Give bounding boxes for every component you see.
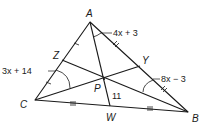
label-b: B	[192, 113, 199, 124]
label-segment-pw: 11	[112, 91, 121, 101]
label-z: Z	[52, 50, 60, 61]
label-angle-b: 8x − 3	[161, 74, 186, 84]
label-w: W	[106, 112, 117, 123]
label-a: A	[85, 8, 93, 19]
label-p: P	[94, 83, 101, 94]
point-p-dot	[103, 78, 105, 80]
segment-bz	[62, 60, 188, 112]
angle-arc-a	[93, 33, 101, 37]
angle-arc-b	[143, 80, 153, 92]
label-angle-a: 4x + 3	[113, 28, 138, 38]
label-y: Y	[142, 55, 150, 66]
angle-arc-c	[56, 70, 70, 88]
triangle-diagram: A B C P Z Y W 4x + 3 3x + 14 8x − 3 11	[0, 0, 205, 128]
label-c: C	[20, 99, 28, 110]
label-angle-c: 3x + 14	[2, 66, 32, 76]
